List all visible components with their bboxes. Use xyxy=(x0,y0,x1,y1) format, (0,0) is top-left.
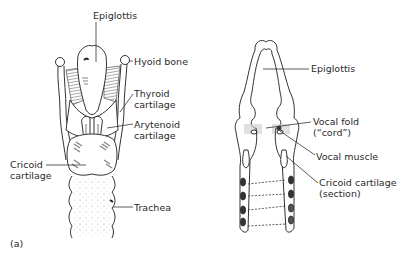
label-vocal-muscle: Vocal muscle xyxy=(316,151,378,162)
label-hyoid-bone: Hyoid bone xyxy=(134,56,188,67)
label-epiglottis-right: Epiglottis xyxy=(311,63,355,74)
label-trachea: Trachea xyxy=(134,202,171,213)
hyoid-left-knob xyxy=(56,58,65,67)
hyoid-right-knob xyxy=(121,56,130,65)
label-vocal-fold: Vocal fold (“cord”) xyxy=(313,116,359,138)
panel-label: (a) xyxy=(10,238,23,249)
label-cricoid-cartilage-section: Cricoid cartilage (section) xyxy=(319,177,397,199)
label-thyroid-cartilage: Thyroid cartilage xyxy=(134,88,176,110)
label-epiglottis-left: Epiglottis xyxy=(93,10,137,21)
label-cricoid-cartilage: Cricoid cartilage xyxy=(10,159,52,181)
left-larynx-drawing xyxy=(56,45,130,238)
label-arytenoid-cartilage: Arytenoid cartilage xyxy=(134,119,180,141)
right-leader-lines xyxy=(263,69,318,183)
